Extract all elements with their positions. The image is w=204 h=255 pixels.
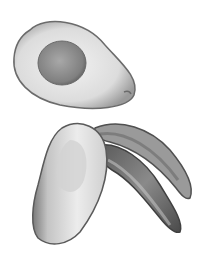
photo-scene: [0, 0, 204, 255]
avocado-photo: [0, 0, 204, 255]
avocado-pit: [38, 41, 86, 85]
avocado-quarter-without-pit: [33, 124, 107, 244]
avocado-half-with-pit: [14, 22, 135, 109]
